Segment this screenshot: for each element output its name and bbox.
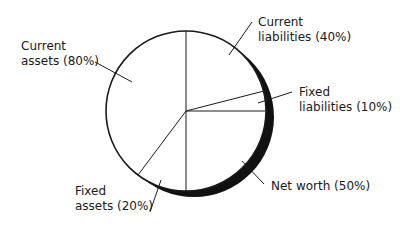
label-fixed-liabilities: Fixed liabilities (10%) [299,85,392,115]
label-fixed-assets-line1: Fixed [75,184,153,199]
leader-current-liabilities [229,22,252,55]
label-fixed-assets: Fixed assets (20%) [75,184,153,214]
label-current-assets-line2: assets (80%) [21,54,99,69]
label-current-liabilities-line1: Current [258,15,351,30]
label-current-assets-line1: Current [21,39,99,54]
label-fixed-assets-line2: assets (20%) [75,199,153,214]
label-fixed-liabilities-line1: Fixed [299,85,392,100]
label-net-worth: Net worth (50%) [271,179,370,194]
label-fixed-liabilities-line2: liabilities (10%) [299,100,392,115]
label-current-assets: Current assets (80%) [21,39,99,69]
label-current-liabilities-line2: liabilities (40%) [258,30,351,45]
label-net-worth-line1: Net worth (50%) [271,179,370,194]
label-current-liabilities: Current liabilities (40%) [258,15,351,45]
